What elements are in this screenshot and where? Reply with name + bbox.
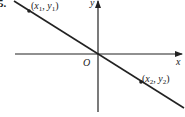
problem-number: 5. xyxy=(0,0,7,9)
y-axis-label: y xyxy=(89,0,95,8)
point-1-label: (x1, y1) xyxy=(31,0,59,13)
x-axis-label: x xyxy=(175,56,181,67)
coordinate-diagram: 5. (x1, y1) (x2, y2) O x y xyxy=(0,0,185,117)
origin-label: O xyxy=(83,57,90,68)
